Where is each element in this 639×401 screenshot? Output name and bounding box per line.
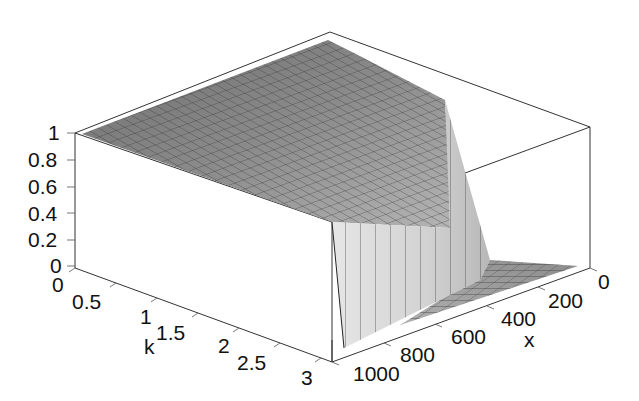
- x-tick-1000: 1000: [353, 363, 400, 384]
- k-tick-2: 2: [218, 335, 230, 356]
- x-tick-600: 600: [451, 326, 486, 347]
- z-tick-1: 1: [48, 122, 60, 143]
- k-axis-ticks: [69, 268, 321, 362]
- surface-plot: [0, 0, 639, 401]
- k-tick-3: 3: [301, 367, 313, 388]
- k-tick-0: 0: [52, 274, 64, 295]
- k-tick-1: 1: [140, 306, 152, 327]
- k-tick-0.5: 0.5: [72, 291, 101, 312]
- x-tick-800: 800: [400, 344, 435, 365]
- x-tick-400: 400: [501, 308, 536, 329]
- k-axis-title: k: [144, 336, 155, 357]
- k-tick-1.5: 1.5: [156, 322, 185, 343]
- z-tick-0.2: 0.2: [28, 229, 57, 250]
- x-axis-title: x: [524, 329, 535, 350]
- x-tick-200: 200: [548, 290, 583, 311]
- z-tick-0.8: 0.8: [28, 149, 57, 170]
- surface-plateau: [82, 40, 450, 228]
- k-tick-2.5: 2.5: [237, 352, 266, 373]
- z-axis-ticks: [67, 133, 75, 266]
- z-tick-0.6: 0.6: [28, 176, 57, 197]
- z-tick-0.4: 0.4: [28, 203, 57, 224]
- x-tick-0: 0: [598, 271, 610, 292]
